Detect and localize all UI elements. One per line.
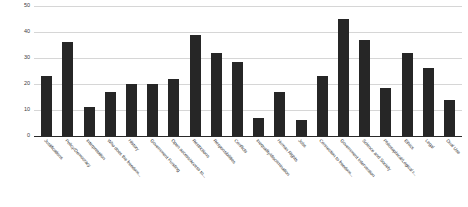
x-axis-tick-labels: JustificationsPolicy/DemocracyInterpreta…: [34, 137, 462, 207]
bar[interactable]: [84, 107, 95, 136]
x-axis-tick-label: Conflicts: [234, 138, 249, 154]
bar-slot: [312, 6, 333, 136]
bar[interactable]: [62, 42, 73, 136]
bar[interactable]: [232, 62, 243, 136]
bar-slot: [57, 6, 78, 136]
bar[interactable]: [105, 92, 116, 136]
bar[interactable]: [423, 68, 434, 136]
bar-slot: [206, 6, 227, 136]
bar[interactable]: [338, 19, 349, 136]
bar[interactable]: [380, 88, 391, 136]
bar[interactable]: [126, 84, 137, 136]
x-axis-label-slot: Responsibilities: [206, 137, 227, 207]
bar-slot: [142, 6, 163, 136]
bar-slot: [248, 6, 269, 136]
y-axis-tick-label: 10: [24, 107, 30, 113]
x-axis-label-slot: Interpretation: [78, 137, 99, 207]
bar[interactable]: [359, 40, 370, 136]
bar-slot: [121, 6, 142, 136]
x-axis-label-slot: Legal: [418, 137, 439, 207]
x-axis-label-slot: Inequality/discrimination: [248, 137, 269, 207]
bar-slot: [227, 6, 248, 136]
x-axis-label-slot: Open access/access to...: [163, 137, 184, 207]
bar[interactable]: [317, 76, 328, 136]
bar-slot: [78, 6, 99, 136]
y-axis-tick-label: 0: [27, 133, 30, 139]
bar-slot: [36, 6, 57, 136]
x-axis-tick-label: Legal: [424, 138, 435, 150]
x-axis-label-slot: Government Intervention: [333, 137, 354, 207]
x-axis-label-slot: Science and Society: [354, 137, 375, 207]
bar-slot: [269, 6, 290, 136]
bar[interactable]: [253, 118, 264, 136]
x-axis-label-slot: Restrictions: [184, 137, 205, 207]
y-axis-tick-label: 20: [24, 81, 30, 87]
bar-slot: [396, 6, 417, 136]
x-axis-label-slot: Policy/Democracy: [57, 137, 78, 207]
y-axis-tick-label: 50: [24, 3, 30, 9]
bar-slot: [290, 6, 311, 136]
bar[interactable]: [168, 79, 179, 136]
bar-series: [34, 6, 462, 136]
x-axis-label-slot: Government Funding: [142, 137, 163, 207]
bar[interactable]: [147, 84, 158, 136]
bar-slot: [184, 6, 205, 136]
x-axis-tick-label: Dual Use: [446, 138, 462, 155]
bar-slot: [375, 6, 396, 136]
bar-slot: [333, 6, 354, 136]
x-axis-label-slot: History: [121, 137, 142, 207]
bar-slot: [439, 6, 460, 136]
bar-slot: [354, 6, 375, 136]
bar[interactable]: [296, 120, 307, 136]
y-axis-tick-labels: 01020304050: [12, 6, 30, 136]
x-axis-label-slot: Human Rights: [269, 137, 290, 207]
x-axis-tick-label: Jobs: [297, 138, 307, 148]
bar[interactable]: [211, 53, 222, 136]
x-axis-tick-label: History: [128, 138, 141, 152]
x-axis-label-slot: Justifications: [36, 137, 57, 207]
x-axis-label-slot: Conflicts: [227, 137, 248, 207]
x-axis-label-slot: Ethics: [396, 137, 417, 207]
y-axis-tick-label: 30: [24, 55, 30, 61]
bar-slot: [100, 6, 121, 136]
x-axis-label-slot: Philosophical/Logical r...: [375, 137, 396, 207]
x-axis-tick-label: Ethics: [403, 138, 415, 150]
y-axis-tick-label: 40: [24, 29, 30, 35]
x-axis-label-slot: Connection to freedom...: [312, 137, 333, 207]
bar-chart: 01020304050 JustificationsPolicy/Democra…: [0, 0, 468, 207]
x-axis-label-slot: Jobs: [290, 137, 311, 207]
bar[interactable]: [274, 92, 285, 136]
bar[interactable]: [444, 100, 455, 136]
plot-area: [34, 6, 462, 136]
bar[interactable]: [41, 76, 52, 136]
x-axis-label-slot: Dual Use: [439, 137, 460, 207]
bar-slot: [418, 6, 439, 136]
bar[interactable]: [190, 35, 201, 136]
bar[interactable]: [402, 53, 413, 136]
bar-slot: [163, 6, 184, 136]
x-axis-label-slot: Who does the freedom...: [100, 137, 121, 207]
